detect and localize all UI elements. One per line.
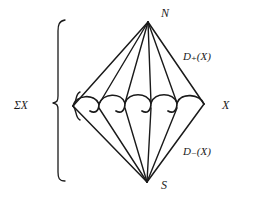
meridian-south-1 — [99, 108, 147, 182]
suspension-brace — [53, 20, 65, 181]
label-north-pole: N — [160, 6, 170, 20]
label-lower-cone: D₋(X) — [182, 145, 211, 158]
equator-wave-group — [73, 95, 204, 112]
label-equator: X — [221, 98, 230, 112]
edge-south-right — [147, 104, 204, 182]
cone-outline-group — [73, 22, 204, 182]
equator-wave-lower — [90, 103, 177, 112]
edge-north-right — [148, 22, 204, 104]
label-suspension: ΣX — [13, 99, 29, 111]
meridian-north-3 — [148, 22, 151, 103]
meridian-south-4 — [147, 108, 177, 182]
meridian-north-1 — [99, 22, 148, 104]
meridian-north-4 — [148, 22, 177, 103]
inner-brace — [73, 92, 80, 120]
equator-wave — [73, 95, 204, 106]
label-south-pole: S — [161, 178, 167, 192]
meridian-south-3 — [147, 108, 151, 182]
label-upper-cone: D₊(X) — [182, 50, 211, 63]
suspension-diagram: N S X D₊(X) D₋(X) ΣX — [0, 0, 255, 198]
